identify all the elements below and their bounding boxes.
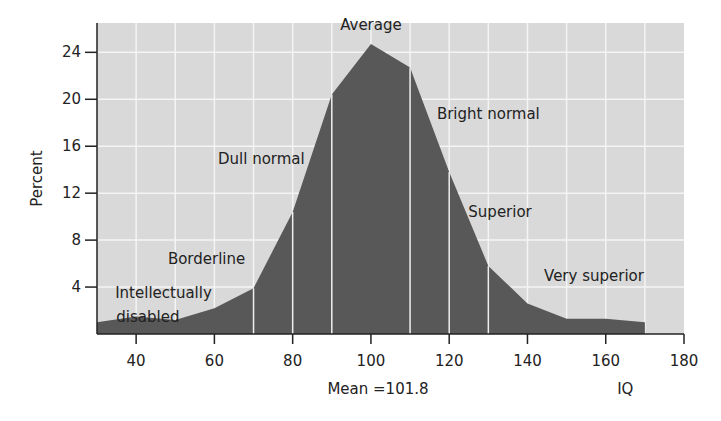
x-axis-title: IQ — [617, 380, 633, 398]
region-label: Intellectually — [115, 284, 212, 302]
y-tick-label: 12 — [62, 184, 81, 202]
x-tick-label: 80 — [283, 352, 302, 370]
x-tick-label: 40 — [127, 352, 146, 370]
x-tick-label: 180 — [670, 352, 699, 370]
y-tick-label: 20 — [62, 90, 81, 108]
x-tick-label: 120 — [435, 352, 464, 370]
y-tick-label: 24 — [62, 43, 81, 61]
region-label: Superior — [468, 203, 532, 221]
y-axis-title: Percent — [28, 150, 46, 207]
region-label: Very superior — [544, 267, 645, 285]
iq-distribution-chart: 406080100120140160180 4812162024 Average… — [0, 0, 721, 421]
y-tick-label: 16 — [62, 137, 81, 155]
chart-canvas: 406080100120140160180 4812162024 Average… — [0, 0, 721, 421]
y-axis-ticks: 4812162024 — [62, 43, 97, 296]
x-tick-label: 60 — [205, 352, 224, 370]
x-tick-label: 140 — [513, 352, 542, 370]
mean-annotation: Mean =101.8 — [327, 380, 428, 398]
region-label: Borderline — [168, 250, 245, 268]
y-tick-label: 8 — [71, 231, 81, 249]
y-tick-label: 4 — [71, 278, 81, 296]
region-label: Bright normal — [437, 105, 540, 123]
region-label: Average — [340, 16, 402, 34]
region-label: disabled — [116, 308, 179, 326]
x-tick-label: 100 — [357, 352, 386, 370]
x-axis-ticks: 406080100120140160180 — [127, 334, 699, 370]
region-label: Dull normal — [218, 150, 305, 168]
x-tick-label: 160 — [591, 352, 620, 370]
